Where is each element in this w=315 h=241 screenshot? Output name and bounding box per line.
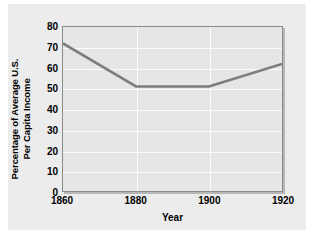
y-tick-label: 30 — [34, 124, 58, 135]
y-tick-label: 20 — [34, 145, 58, 156]
y-axis-tick-labels: 01020304050607080 — [34, 26, 58, 192]
y-tick-label: 80 — [34, 21, 58, 32]
plot-area — [62, 26, 283, 192]
y-tick-label: 60 — [34, 62, 58, 73]
y-tick-label: 50 — [34, 83, 58, 94]
x-tick-label: 1860 — [39, 195, 85, 206]
x-tick-label: 1900 — [186, 195, 232, 206]
y-tick-label: 70 — [34, 41, 58, 52]
y-tick-label: 10 — [34, 166, 58, 177]
x-axis-tick-labels: 1860188019001920 — [62, 195, 283, 209]
chart-figure: Percentage of Average U.S. Per Capita In… — [0, 0, 315, 241]
y-tick-label: 40 — [34, 104, 58, 115]
y-axis-title-line-2: Per Capita Income — [21, 34, 33, 204]
x-tick-label: 1880 — [113, 195, 159, 206]
data-series-line — [63, 27, 282, 191]
x-axis-title: Year — [62, 212, 283, 223]
y-axis-title-line-1: Percentage of Average U.S. — [9, 34, 21, 204]
x-tick-label: 1920 — [260, 195, 306, 206]
